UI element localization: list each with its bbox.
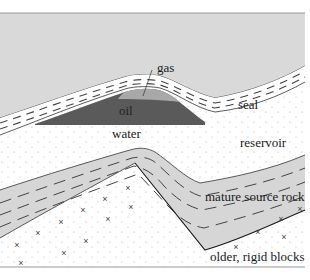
- label-basement: older, rigid blocks: [210, 250, 304, 263]
- svg-text:×: ×: [281, 232, 286, 242]
- svg-text:×: ×: [35, 228, 40, 238]
- svg-text:×: ×: [61, 248, 66, 258]
- label-gas: gas: [157, 61, 174, 74]
- svg-text:×: ×: [297, 204, 302, 214]
- svg-text:×: ×: [128, 202, 133, 212]
- label-water: water: [112, 127, 141, 140]
- svg-text:×: ×: [255, 227, 260, 237]
- svg-text:×: ×: [102, 194, 107, 204]
- svg-text:×: ×: [125, 183, 130, 193]
- svg-text:×: ×: [278, 214, 283, 224]
- svg-text:×: ×: [14, 240, 19, 250]
- svg-text:×: ×: [80, 205, 85, 215]
- svg-text:×: ×: [83, 236, 88, 246]
- label-oil: oil: [119, 104, 133, 117]
- svg-text:×: ×: [58, 217, 63, 227]
- label-source-rock: mature source rock: [205, 190, 305, 203]
- svg-text:×: ×: [105, 214, 110, 224]
- label-seal: seal: [238, 98, 258, 111]
- label-reservoir: reservoir: [240, 136, 286, 149]
